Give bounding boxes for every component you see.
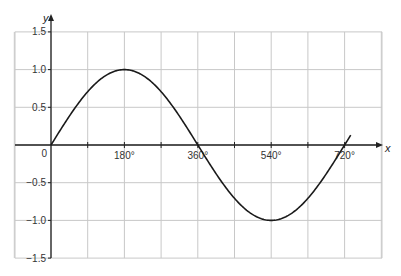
x-tick-label: 540° [261, 150, 282, 161]
sine-chart: xy0180°360°540°720°1.51.00.5−0.5−1.0−1.5 [0, 0, 401, 276]
y-axis-arrow-icon [48, 14, 54, 21]
y-tick-label: −1.5 [26, 253, 46, 264]
x-axis-label: x [384, 142, 391, 154]
y-tick-label: 0.5 [32, 102, 46, 113]
x-tick-label: 180° [114, 150, 135, 161]
origin-label: 0 [41, 148, 47, 159]
y-tick-label: −0.5 [26, 177, 46, 188]
y-tick-label: 1.5 [32, 26, 46, 37]
y-tick-label: 1.0 [32, 64, 46, 75]
y-tick-label: −1.0 [26, 215, 46, 226]
y-axis-label: y [42, 12, 50, 24]
